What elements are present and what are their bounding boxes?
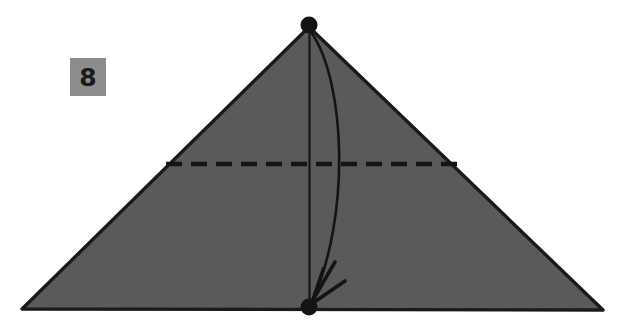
step-number-badge: 8 <box>70 58 106 96</box>
folded-paper-triangle <box>22 27 603 310</box>
base-midpoint-dot <box>301 299 318 316</box>
origami-step-diagram: 8 <box>0 0 620 325</box>
origami-figure <box>0 0 620 325</box>
apex-vertex-dot <box>301 17 318 34</box>
step-number-label: 8 <box>79 65 96 90</box>
